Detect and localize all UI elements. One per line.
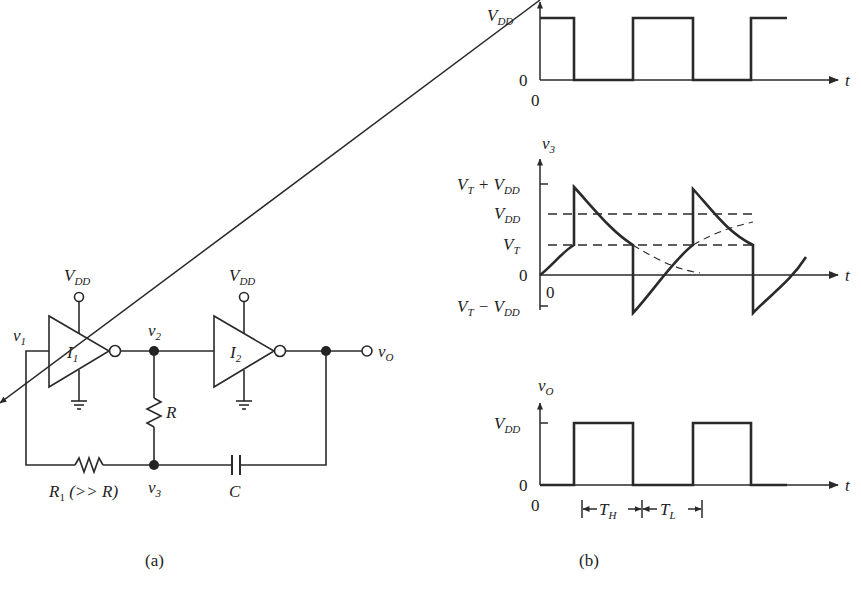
waveform-v2: VDD 0 0 t: [487, 2, 851, 110]
tick-vdd: VDD: [494, 204, 520, 225]
vdd-tick-label-top: VDD: [487, 6, 513, 27]
inverter-i1: I1 VDD: [49, 266, 121, 409]
tl-label: TL: [660, 500, 676, 521]
tick-zero: 0: [519, 266, 528, 285]
tick-vt-plus-vdd: VT + VDD: [457, 175, 520, 196]
zero-y-label-top: 0: [519, 71, 528, 90]
dashed-decay-curve: [633, 245, 700, 273]
node-v2-label: v2: [148, 321, 162, 342]
square-wave-vo: [540, 423, 787, 485]
vdd-label-1: VDD: [64, 266, 90, 287]
node-v3-label: v3: [148, 478, 162, 499]
vdd-tick-label-bottom: VDD: [494, 414, 520, 435]
zero-x-label-bottom: 0: [531, 496, 540, 515]
square-wave-v2: [540, 18, 787, 80]
v3-curve: [540, 187, 806, 313]
resistor-r1-label: R1 (>> R): [48, 482, 118, 503]
output-vo-label: vO: [378, 342, 394, 363]
wire-v1: [26, 351, 75, 465]
v3-axis-label: v3: [542, 134, 556, 155]
caption-b: (b): [579, 551, 599, 570]
resistor-r1: [75, 458, 103, 472]
th-label: TH: [599, 500, 617, 521]
dashed-rise-curve: [693, 222, 753, 245]
output-terminal: [362, 346, 372, 356]
t-axis-label-top: t: [845, 71, 851, 90]
capacitor-label: C: [229, 482, 241, 501]
resistor-r-label: R: [165, 403, 177, 422]
t-axis-label-mid: t: [845, 266, 851, 285]
tick-vt-minus-vdd: VT − VDD: [457, 297, 520, 318]
tick-vt: VT: [503, 235, 520, 256]
x-origin-zero: 0: [546, 283, 555, 302]
vdd-terminal-2: [240, 293, 249, 302]
vdd-label-2: VDD: [229, 266, 255, 287]
circuit-diagram: I1 VDD I2 VDD: [13, 266, 394, 570]
zero-x-label-top: 0: [531, 91, 540, 110]
vo-axis-label: vO: [538, 376, 554, 397]
resistor-r: [147, 398, 161, 427]
waveform-v3: v3 VT + VDD VDD VT 0 0 VT − VDD t: [457, 134, 851, 318]
vdd-terminal-1: [75, 293, 84, 302]
t-axis-label-bottom: t: [845, 476, 851, 495]
node-v1-label: v1: [13, 326, 26, 347]
zero-y-label-bottom: 0: [519, 476, 528, 495]
inverter-i2: I2 VDD: [214, 266, 286, 409]
caption-a: (a): [145, 551, 164, 570]
inverter-i2-label: I2: [229, 343, 242, 364]
figure: I1 VDD I2 VDD: [0, 0, 861, 594]
waveform-vo: vO VDD 0 0 t TH TL: [0, 0, 851, 521]
